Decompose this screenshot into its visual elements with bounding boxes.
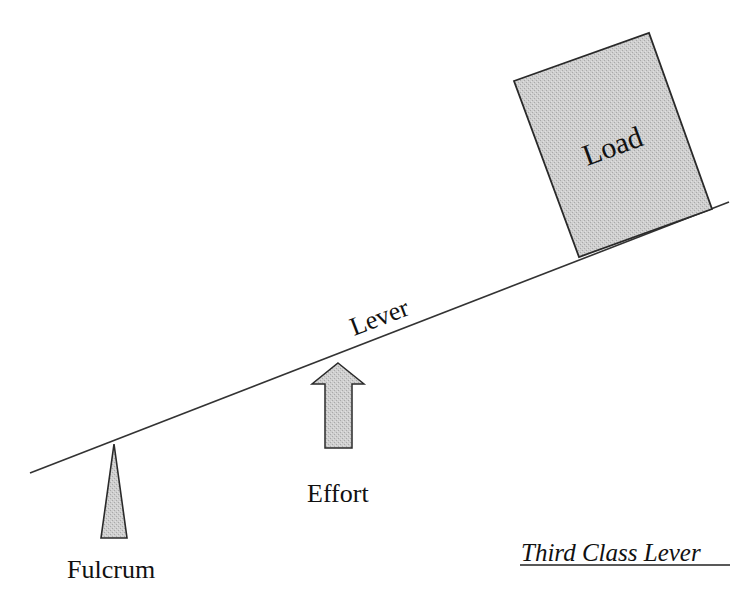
effort-label: Effort [307, 479, 369, 508]
effort-arrow-icon [312, 363, 364, 448]
diagram-caption: Third Class Lever [521, 539, 701, 566]
lever-bar [30, 202, 729, 473]
fulcrum-triangle [101, 444, 127, 538]
lever-label: Lever [346, 293, 413, 342]
third-class-lever-diagram: Load Lever Effort Fulcrum Third Class Le… [0, 0, 747, 598]
fulcrum-label: Fulcrum [67, 555, 155, 584]
